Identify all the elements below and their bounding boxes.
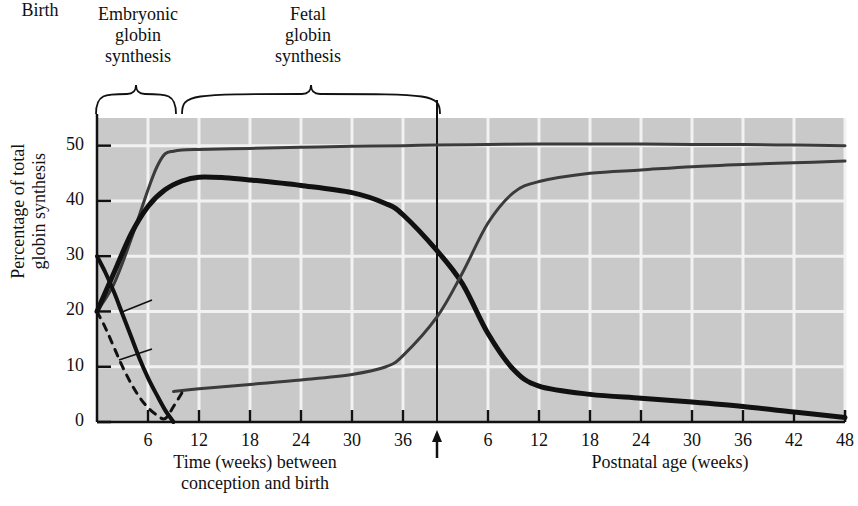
- brace-embryonic: [96, 85, 176, 114]
- birth-arrow-head: [432, 430, 442, 442]
- brace-fetal: [182, 85, 440, 114]
